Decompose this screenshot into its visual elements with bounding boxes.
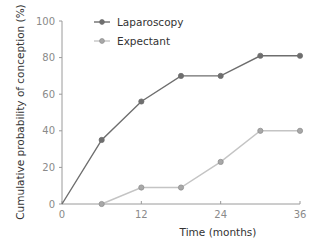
data-point-marker xyxy=(297,53,302,58)
legend-marker-icon xyxy=(100,39,105,44)
series-line xyxy=(102,131,300,204)
data-point-marker xyxy=(139,185,144,190)
x-tick-label: 36 xyxy=(294,209,307,220)
data-point-marker xyxy=(178,185,183,190)
data-point-marker xyxy=(258,128,263,133)
series-expectant xyxy=(99,128,303,206)
legend: LaparoscopyExpectant xyxy=(94,16,183,47)
legend-item-expectant: Expectant xyxy=(94,35,170,47)
y-tick-label: 20 xyxy=(42,162,55,173)
legend-label: Laparoscopy xyxy=(117,16,183,28)
y-tick-label: 100 xyxy=(36,16,55,27)
data-point-marker xyxy=(258,53,263,58)
x-axis-title: Time (months) xyxy=(179,226,257,238)
y-tick-label: 40 xyxy=(42,125,55,136)
x-tick-label: 24 xyxy=(214,209,227,220)
axes: 0204060801000122436 xyxy=(36,16,306,221)
series-group xyxy=(62,53,303,206)
legend-marker-icon xyxy=(100,20,105,25)
y-tick-label: 80 xyxy=(42,52,55,63)
data-point-marker xyxy=(99,137,104,142)
data-point-marker xyxy=(139,99,144,104)
data-point-marker xyxy=(218,159,223,164)
y-tick-label: 60 xyxy=(42,89,55,100)
data-point-marker xyxy=(218,73,223,78)
series-laparoscopy xyxy=(62,53,303,204)
x-tick-label: 0 xyxy=(59,209,65,220)
y-tick-label: 0 xyxy=(49,199,55,210)
data-point-marker xyxy=(297,128,302,133)
data-point-marker xyxy=(99,201,104,206)
data-point-marker xyxy=(178,73,183,78)
x-tick-label: 12 xyxy=(135,209,148,220)
legend-label: Expectant xyxy=(117,35,170,47)
line-chart: 0204060801000122436 LaparoscopyExpectant… xyxy=(0,0,321,252)
legend-item-laparoscopy: Laparoscopy xyxy=(94,16,183,28)
y-axis-title: Cumulative probability of conception (%) xyxy=(14,4,26,219)
